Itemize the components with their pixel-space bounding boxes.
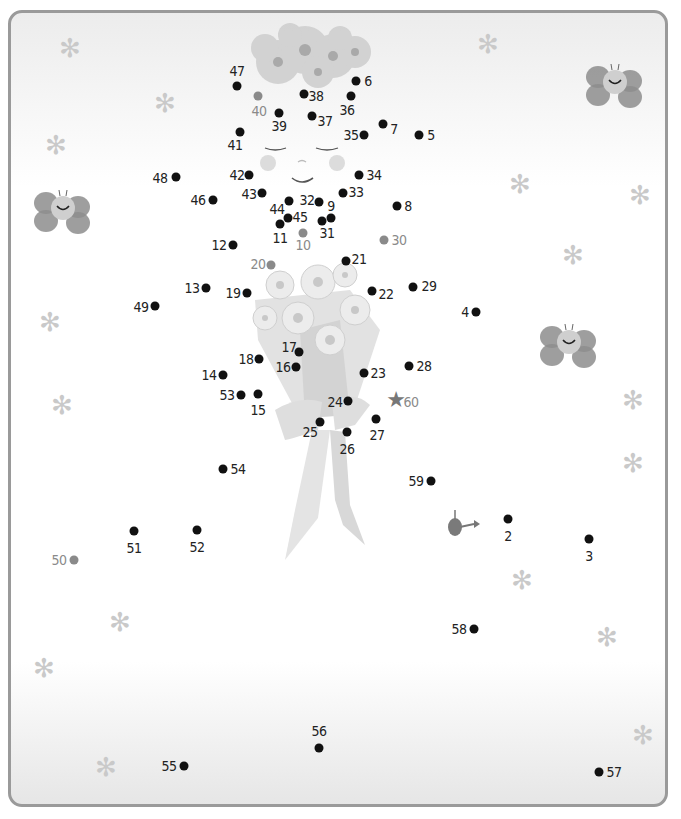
dot-46[interactable] xyxy=(209,196,218,205)
dot-label: 3 xyxy=(585,549,593,563)
dot-label: 24 xyxy=(327,395,342,409)
dot-53[interactable] xyxy=(237,391,246,400)
dot-57[interactable] xyxy=(595,768,604,777)
dot-44[interactable] xyxy=(285,197,294,206)
dot-label: 16 xyxy=(275,360,290,374)
flower-icon: ✻ xyxy=(51,392,73,418)
dot-label: 26 xyxy=(339,442,354,456)
dot-54[interactable] xyxy=(219,465,228,474)
dot-33[interactable] xyxy=(339,189,348,198)
dot-label: 45 xyxy=(292,210,307,224)
dot-37[interactable] xyxy=(308,112,317,121)
dot-label: 10 xyxy=(295,238,310,252)
dot-label: 31 xyxy=(319,226,334,240)
dot-label: 46 xyxy=(190,193,205,207)
dot-label: 35 xyxy=(343,128,358,142)
dot-51[interactable] xyxy=(130,527,139,536)
dot-14[interactable] xyxy=(219,371,228,380)
flower-icon: ✻ xyxy=(45,132,67,158)
bee-icon xyxy=(586,62,644,112)
dot-7[interactable] xyxy=(379,120,388,129)
flower-icon: ✻ xyxy=(59,35,81,61)
dot-2[interactable] xyxy=(504,515,513,524)
dot-label: 47 xyxy=(229,64,244,78)
dot-55[interactable] xyxy=(180,762,189,771)
dot-label: 4 xyxy=(461,305,469,319)
flower-icon: ✻ xyxy=(33,655,55,681)
dot-5[interactable] xyxy=(415,131,424,140)
dot-label: 52 xyxy=(189,540,204,554)
dot-label: 38 xyxy=(308,89,323,103)
dot-40[interactable] xyxy=(254,92,263,101)
dot-29[interactable] xyxy=(409,283,418,292)
dot-28[interactable] xyxy=(405,362,414,371)
dot-label: 20 xyxy=(250,257,265,271)
dot-59[interactable] xyxy=(427,477,436,486)
dot-label: 53 xyxy=(219,388,234,402)
flower-icon: ✻ xyxy=(477,31,499,57)
dot-50[interactable] xyxy=(70,556,79,565)
dot-58[interactable] xyxy=(470,625,479,634)
dot-21[interactable] xyxy=(342,257,351,266)
dot-label: 8 xyxy=(404,199,412,213)
dot-label: 32 xyxy=(299,193,314,207)
dot-9[interactable] xyxy=(327,214,336,223)
dot-label: 12 xyxy=(211,238,226,252)
dot-8[interactable] xyxy=(393,202,402,211)
dot-12[interactable] xyxy=(229,241,238,250)
dot-label: 48 xyxy=(152,171,167,185)
dot-39[interactable] xyxy=(275,109,284,118)
dot-4[interactable] xyxy=(472,308,481,317)
dot-23[interactable] xyxy=(360,369,369,378)
dot-35[interactable] xyxy=(360,131,369,140)
dot-34[interactable] xyxy=(355,171,364,180)
dot-52[interactable] xyxy=(193,526,202,535)
dot-15[interactable] xyxy=(254,390,263,399)
dot-24[interactable] xyxy=(344,397,353,406)
dot-label: 11 xyxy=(272,231,287,245)
dot-32[interactable] xyxy=(315,198,324,207)
dot-56[interactable] xyxy=(315,744,324,753)
dot-label: 2 xyxy=(504,529,512,543)
dot-27[interactable] xyxy=(372,415,381,424)
bee-icon xyxy=(540,322,598,372)
dot-label: 56 xyxy=(311,724,326,738)
bee-icon xyxy=(34,188,92,238)
dot-label: 54 xyxy=(230,462,245,476)
flower-icon: ✻ xyxy=(154,90,176,116)
dot-20[interactable] xyxy=(267,261,276,270)
dot-label: 59 xyxy=(408,474,423,488)
dot-label: 15 xyxy=(250,403,265,417)
flower-icon: ✻ xyxy=(562,242,584,268)
dot-label: 34 xyxy=(366,168,381,182)
dot-43[interactable] xyxy=(258,189,267,198)
dot-label: 19 xyxy=(225,286,240,300)
dot-18[interactable] xyxy=(255,355,264,364)
dot-13[interactable] xyxy=(202,284,211,293)
dot-26[interactable] xyxy=(343,428,352,437)
flower-icon: ✻ xyxy=(622,450,644,476)
dot-11[interactable] xyxy=(276,220,285,229)
flower-icon: ✻ xyxy=(509,171,531,197)
dot-16[interactable] xyxy=(292,363,301,372)
dot-30[interactable] xyxy=(380,236,389,245)
dot-label: 23 xyxy=(370,366,385,380)
dot-19[interactable] xyxy=(243,289,252,298)
dot-47[interactable] xyxy=(233,82,242,91)
dot-label: 50 xyxy=(51,553,66,567)
dot-label: 40 xyxy=(251,104,266,118)
dot-label: 55 xyxy=(161,759,176,773)
dot-38[interactable] xyxy=(300,90,309,99)
dot-22[interactable] xyxy=(368,287,377,296)
dot-6[interactable] xyxy=(352,77,361,86)
dot-36[interactable] xyxy=(347,92,356,101)
dot-49[interactable] xyxy=(151,302,160,311)
flower-icon: ✻ xyxy=(511,567,533,593)
dot-48[interactable] xyxy=(172,173,181,182)
dot-45[interactable] xyxy=(284,214,293,223)
dot-label: 13 xyxy=(184,281,199,295)
dot-42[interactable] xyxy=(245,171,254,180)
dot-label: 51 xyxy=(126,541,141,555)
dot-41[interactable] xyxy=(236,128,245,137)
dot-3[interactable] xyxy=(585,535,594,544)
